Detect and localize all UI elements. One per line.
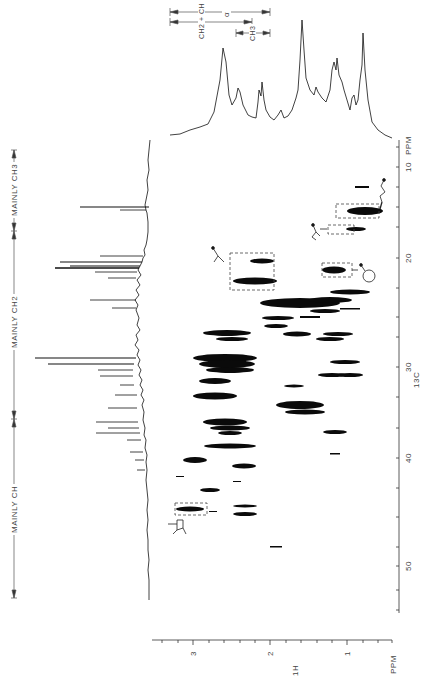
carbon-tick-20: 20 [404, 253, 413, 263]
proton-tick-2: 2 [266, 651, 275, 656]
region-label-ch2-ch: CH2 + CH [198, 2, 205, 40]
proton-tick-1: 1 [343, 651, 352, 656]
region-label-ch3: CH3 [249, 24, 256, 42]
proton-axis-label: 1H [291, 665, 300, 676]
carbon-tick-10: 10 [404, 162, 413, 172]
carbon-tick-40: 40 [404, 453, 413, 463]
region-label-mainly-ch2: MAINLY CH2 [10, 294, 19, 350]
carbon-projection-spectrum [35, 140, 150, 600]
cross-peak-contours [176, 186, 383, 548]
carbon-axis-unit: PPM [404, 136, 413, 155]
proton-axis-unit: PPM [389, 655, 398, 674]
nmr-figure-canvas [0, 0, 431, 681]
carbon-axis-label: 13C [412, 372, 421, 388]
region-label-mainly-ch: MAINLY CH [10, 484, 19, 535]
region-label-mainly-ch3: MAINLY CH3 [10, 162, 19, 218]
proton-tick-3: 3 [189, 651, 198, 656]
carbon-tick-50: 50 [404, 561, 413, 571]
proton-axis [152, 640, 392, 645]
carbon-tick-30: 30 [404, 362, 413, 372]
carbon-axis [396, 140, 399, 613]
region-label-alpha: α [222, 11, 231, 18]
